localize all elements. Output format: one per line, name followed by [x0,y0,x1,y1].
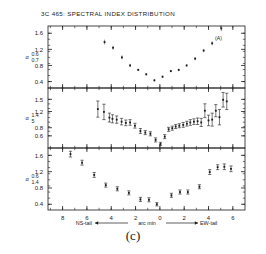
data-point [121,121,123,123]
data-point [171,194,173,196]
y-axis-label-sub: 1.4 [32,179,39,185]
data-point [116,119,118,121]
data-point [128,192,130,194]
data-point [149,133,151,135]
y-axis-label-alpha: α [25,176,29,182]
data-point [220,28,222,30]
data-point [112,47,114,49]
data-point [209,171,211,173]
data-point [148,199,150,201]
data-point [168,128,170,130]
x-tick-label: 0 [158,215,162,221]
data-point [178,69,180,71]
figure-root: 3C 465: SPECTRAL INDEX DISTRIBUTION 0.40… [0,0,266,254]
data-point [198,186,200,188]
data-point [164,136,166,138]
data-point [121,57,123,59]
data-point [103,111,105,113]
data-point [178,125,180,127]
y-axis-label-sup: 0.6 [32,173,39,179]
data-series-B [96,92,228,145]
figure-caption: (c) [0,228,266,244]
data-series-A [104,26,223,82]
panel-frame [48,148,245,210]
data-point [171,127,173,129]
data-point [145,73,147,75]
x-tick-label: 8 [61,215,65,221]
data-point [197,120,199,122]
data-point [175,126,177,128]
x-axis-arrow-right-head [195,221,198,224]
data-point [116,188,118,190]
data-point [154,79,156,81]
data-point [230,168,232,170]
y-axis-label-sub: 5 [32,118,35,124]
x-axis-caption-center: arc min [138,220,156,226]
data-point [186,123,188,125]
data-point [219,116,221,118]
data-point [222,99,224,101]
data-point [129,122,131,124]
data-point [194,58,196,60]
panel-A: 0.40.81.21.6α0.60.7 [25,26,245,88]
data-point [129,65,131,67]
y-tick-label: 0.6 [35,133,44,139]
data-point [187,191,189,193]
data-series-C [69,151,233,206]
data-point [204,110,206,112]
y-tick-label: 1.6 [35,153,44,159]
data-point [140,198,142,200]
data-point [144,132,146,134]
data-point [170,70,172,72]
data-point [217,166,219,168]
data-point [81,162,83,164]
data-point [105,184,107,186]
y-tick-label: 0.8 [35,185,44,191]
y-axis-label-sub: 0.7 [32,57,39,63]
data-point [186,65,188,67]
x-tick-label: 4 [110,215,114,221]
data-point [223,166,225,168]
data-point [125,122,127,124]
data-point [156,203,158,205]
data-point [160,143,162,145]
panel-C: 0.40.81.21.686420246α0.61.4 [25,148,245,221]
data-point [200,122,202,124]
data-point [104,41,106,43]
data-point [140,130,142,132]
data-point [93,174,95,176]
y-tick-label: 0.4 [35,201,44,207]
data-point [193,121,195,123]
y-tick-label: 0.8 [35,63,44,69]
data-point [109,117,111,119]
data-point [97,108,99,110]
data-point [162,76,164,78]
x-tick-label: 2 [183,215,187,221]
panel-a-annotation: (A) [215,35,222,41]
x-tick-label: 6 [231,215,235,221]
panel-frame [48,88,245,148]
y-axis-label-sup: 1.4 [32,112,39,118]
y-axis-label-alpha: α [25,54,29,60]
data-point [215,110,217,112]
x-axis-caption-left: NS-tail [76,220,92,226]
data-point [155,139,157,141]
data-point [211,119,213,121]
data-point [226,100,228,102]
x-axis-arrow-left-head [95,221,98,224]
y-tick-label: 1.6 [35,30,44,36]
data-point [137,69,139,71]
plot-canvas: 0.40.81.21.6α0.60.70.60.81.21.5α1.450.40… [0,0,266,254]
data-point [179,191,181,193]
data-point [112,118,114,120]
data-point [182,124,184,126]
y-axis-label-alpha: α [25,115,29,121]
data-point [208,120,210,122]
y-axis-label-sup: 0.6 [32,51,39,57]
y-tick-label: 0.8 [35,125,44,131]
spectral-index-plot: 0.40.81.21.6α0.60.70.60.81.21.5α1.450.40… [0,0,266,254]
data-point [70,153,72,155]
data-point [134,125,136,127]
data-point [203,50,205,52]
x-axis-caption-right: EW-tail [200,220,217,226]
